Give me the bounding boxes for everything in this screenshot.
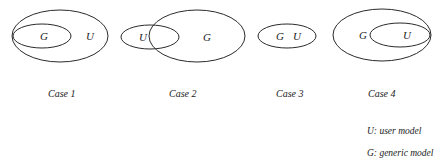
case-4-inner-ellipse-u: [370, 23, 430, 47]
case-4-set-label-u: U: [403, 29, 412, 41]
case-1-set-label-u: U: [86, 30, 95, 42]
case-3-outer-ellipse-gu: [258, 24, 316, 48]
case-4-set-label-g: G: [359, 29, 367, 41]
case-2-set-label-u: U: [139, 31, 148, 43]
legend-generic-model: G: generic model: [367, 148, 433, 158]
case-3-set-label-u: U: [293, 30, 302, 42]
case-2-set-label-g: G: [203, 31, 211, 43]
case-3-set-label-g: G: [276, 30, 284, 42]
case-1-set-label-g: G: [40, 30, 48, 42]
ellipse-group: [12, 9, 431, 62]
case-4-label: Case 4: [368, 88, 396, 99]
venn-diagram: GUUGGUGU: [0, 0, 443, 167]
case-1-label: Case 1: [48, 88, 76, 99]
case-2-inner-ellipse-u: [121, 25, 179, 49]
case-3-label: Case 3: [276, 88, 304, 99]
case-2-label: Case 2: [169, 88, 197, 99]
case-4-outer-ellipse-g: [333, 9, 431, 61]
case-2-outer-ellipse-g: [149, 10, 245, 62]
ellipse-labels: GUUGGUGU: [40, 29, 412, 43]
legend-user-model: U: user model: [367, 126, 421, 136]
